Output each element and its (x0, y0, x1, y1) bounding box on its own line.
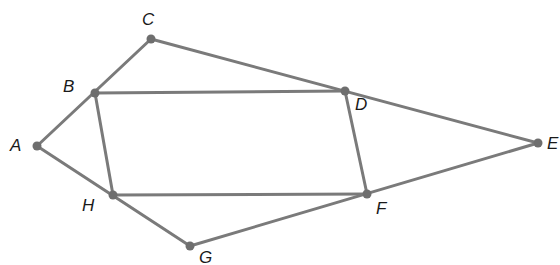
geometry-diagram: ABCDEFGH (0, 0, 560, 265)
point-label-f: F (376, 200, 386, 217)
diagram-svg (0, 0, 560, 265)
point-h (109, 191, 118, 200)
point-c (147, 35, 156, 44)
point-label-e: E (547, 135, 558, 152)
point-label-b: B (63, 78, 74, 95)
point-b (91, 89, 100, 98)
segment-bd (95, 91, 345, 93)
point-g (186, 242, 195, 251)
point-label-c: C (142, 11, 154, 28)
point-label-g: G (199, 249, 212, 265)
segment-fh (113, 194, 367, 195)
point-d (341, 87, 350, 96)
point-label-a: A (10, 137, 21, 154)
point-e (534, 139, 543, 148)
point-f (363, 190, 372, 199)
point-a (33, 142, 42, 151)
point-label-d: D (355, 96, 367, 113)
segment-hb (95, 93, 113, 195)
point-label-h: H (82, 197, 94, 214)
